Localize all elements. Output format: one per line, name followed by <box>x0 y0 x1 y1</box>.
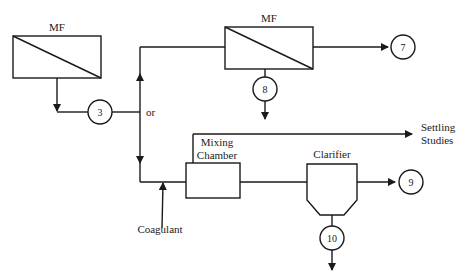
stream-9-node: 9 <box>399 170 423 194</box>
mixing-label-line1: Mixing <box>201 136 234 148</box>
mixing-chamber-box <box>186 163 240 198</box>
svg-text:7: 7 <box>401 42 406 53</box>
coagulant-arrow <box>162 183 163 228</box>
mixing-label-line2: Chamber <box>197 149 238 161</box>
coagulant-label: Coagulant <box>137 223 182 235</box>
or-label: or <box>146 106 156 118</box>
settling-label-line1: Settling <box>421 121 456 133</box>
mf-unit-left: MF <box>13 21 101 78</box>
stream-8-node: 8 <box>253 77 277 101</box>
stream-10-node: 10 <box>320 226 344 250</box>
clarifier-label: Clarifier <box>313 148 351 160</box>
mf-right-label: MF <box>261 12 277 24</box>
svg-text:9: 9 <box>409 177 414 188</box>
process-flow-diagram: MF 3 or MF 7 8 Coagulant Mixing Chamber <box>0 0 464 280</box>
svg-text:10: 10 <box>327 233 337 244</box>
svg-text:3: 3 <box>98 107 103 118</box>
clarifier-shape <box>307 164 357 215</box>
clarifier: Clarifier <box>307 148 357 215</box>
settling-label-line2: Studies <box>421 134 453 146</box>
svg-text:8: 8 <box>263 84 268 95</box>
stream-7-node: 7 <box>391 35 415 59</box>
stream-3-node: 3 <box>88 100 112 124</box>
mf-left-label: MF <box>49 21 65 33</box>
mixing-chamber: Mixing Chamber <box>186 136 240 198</box>
mf-unit-right: MF <box>225 12 313 69</box>
